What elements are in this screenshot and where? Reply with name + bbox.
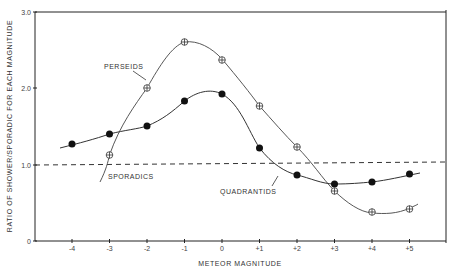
quadrantids-point: [294, 172, 301, 179]
x-tick-labels: -4 -3 -2 -1 0 +1 +2 +3 +4 +5: [69, 245, 414, 252]
x-tick-label: 0: [220, 245, 224, 252]
quadrantids-point: [331, 181, 338, 188]
quadrantids-label: QUADRANTIDS: [220, 188, 276, 196]
x-tick-label: -1: [181, 245, 187, 252]
quadrantids-point: [181, 98, 188, 105]
x-axis-label: METEOR MAGNITUDE: [198, 260, 282, 267]
x-tick-label: +3: [331, 245, 339, 252]
x-tick-label: +1: [256, 245, 264, 252]
sporadics-reference-line: [35, 162, 446, 165]
x-tick-label: -2: [144, 245, 150, 252]
perseids-point: [369, 209, 376, 216]
perseids-point: [144, 85, 151, 92]
y-tick-label: 1.0: [21, 162, 31, 169]
quadrantids-leader-line: [272, 176, 278, 186]
y-tick-label: 2.0: [21, 85, 31, 92]
quadrantids-point: [69, 141, 76, 148]
sporadics-label: SPORADICS: [108, 173, 154, 180]
quadrantids-point: [106, 131, 113, 138]
x-tick-label: -3: [106, 245, 112, 252]
perseids-leader-line: [133, 71, 146, 80]
perseids-point: [256, 103, 263, 110]
perseids-point: [181, 39, 188, 46]
perseids-point: [106, 152, 113, 159]
perseids-point: [219, 57, 226, 64]
plot-frame: [35, 10, 446, 243]
chart-canvas: 3.0 2.0 1.0 0 -4 -3 -2 -1 0 +1 +2 +3 +4 …: [0, 0, 457, 272]
quadrantids-point: [256, 145, 263, 152]
perseids-point: [406, 206, 413, 213]
perseids-point: [331, 188, 338, 195]
quadrantids-point: [369, 179, 376, 186]
quadrantids-point: [144, 123, 151, 130]
x-tick-label: -4: [69, 245, 75, 252]
perseids-point: [294, 144, 301, 151]
x-tick-label: +4: [368, 245, 376, 252]
quadrantids-point: [219, 91, 226, 98]
x-tick-label: +5: [406, 245, 414, 252]
y-tick-label: 0: [27, 238, 31, 245]
perseids-label: PERSEIDS: [104, 63, 143, 70]
y-tick-label: 3.0: [21, 9, 31, 16]
y-axis-label: RATIO OF SHOWER/SPORADIC FOR EACH MAGNIT…: [6, 20, 13, 232]
quadrantids-point: [406, 171, 413, 178]
quadrantids-curve: [60, 91, 420, 184]
x-tick-label: +2: [293, 245, 301, 252]
